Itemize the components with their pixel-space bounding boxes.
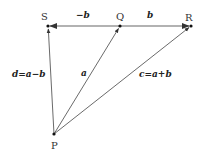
label-d: d=a−b	[12, 69, 46, 79]
label-q: Q	[116, 11, 124, 22]
label-a: a	[81, 68, 87, 78]
label-minus-b: −b	[76, 10, 90, 20]
vector-d	[48, 29, 54, 134]
point-p	[52, 132, 55, 135]
vector-c	[54, 28, 189, 135]
point-s	[46, 24, 49, 27]
vector-a	[54, 29, 119, 135]
label-c: c=a+b	[139, 69, 172, 79]
vector-diagram: S Q R P −b b a c=a+b d=a−b	[0, 0, 205, 158]
point-r	[189, 24, 192, 27]
label-p: P	[51, 140, 58, 151]
label-s: S	[41, 11, 48, 22]
label-b: b	[147, 10, 153, 20]
point-q	[118, 24, 121, 27]
label-r: R	[185, 12, 193, 23]
